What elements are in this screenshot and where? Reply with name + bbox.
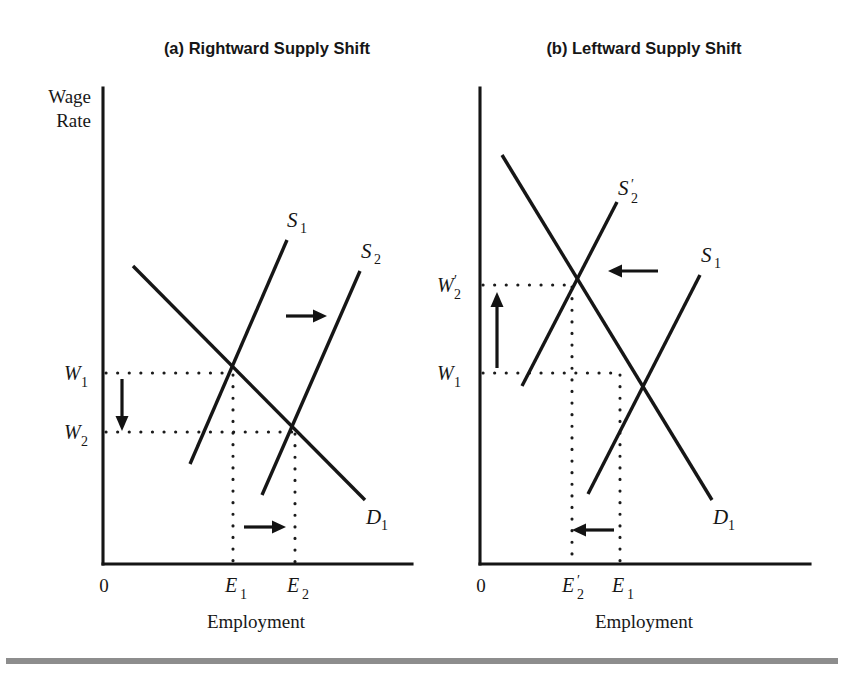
panel-b-supply-1-label-sub: 1: [714, 256, 721, 271]
panel-a-tick-e1: E 1: [224, 574, 247, 602]
panel-b-tick-e1-sub: 1: [627, 587, 634, 602]
panel-b-tick-e2-prime-prime: ′: [577, 573, 580, 588]
panel-a-wage-fall-arrow: [116, 379, 129, 431]
panel-a-employment-rise-arrow: [244, 521, 286, 534]
panel-b-tick-w2-prime: W ′ 2: [437, 273, 461, 302]
panel-b-supply-curve-2-prime: [522, 202, 617, 386]
panel-b-tick-e1-text: E: [611, 574, 624, 596]
panel-b-tick-w2-prime-prime: ′: [454, 273, 457, 288]
panel-a-supply-2-label-sub: 2: [374, 252, 381, 267]
panel-b-tick-e2-prime: E ′ 2: [561, 573, 584, 602]
panel-a-demand-1-label: D 1: [365, 505, 388, 533]
panel-a-supply-1-label-sub: 1: [300, 221, 307, 236]
panel-b-x-axis-label: Employment: [595, 611, 694, 632]
panel-b-employment-fall-arrow: [572, 524, 614, 537]
panel-a-tick-e1-text: E: [224, 574, 237, 596]
panel-b-supply-curve-1: [588, 275, 700, 494]
panel-b-tick-e2-prime-text: E: [561, 574, 574, 596]
panel-b-wage-rise-arrow: [491, 292, 504, 368]
panel-a-supply-curve-2: [262, 271, 360, 495]
panel-b-title: (b) Leftward Supply Shift: [546, 39, 742, 57]
panel-b-supply-2-prime-label-text: S: [618, 176, 629, 200]
panel-a-demand-curve-1: [133, 266, 365, 500]
panel-b-tick-w1-sub: 1: [454, 375, 461, 390]
panel-b-tick-e2-prime-sub: 2: [577, 587, 584, 602]
panel-b-origin-label: 0: [476, 575, 486, 596]
panel-b-tick-e1: E 1: [611, 574, 634, 602]
panel-b-supply-1-label-text: S: [701, 243, 712, 267]
panel-b-demand-1-label: D 1: [712, 505, 735, 533]
panel-a-tick-e2-text: E: [286, 574, 299, 596]
panel-a-supply-shift-arrow: [286, 310, 327, 323]
panel-a-supply-2-label-text: S: [361, 239, 372, 263]
panel-b-supply-shift-arrow: [608, 265, 658, 278]
panel-a-tick-e1-sub: 1: [240, 587, 247, 602]
panel-a-tick-w1-sub: 1: [81, 375, 88, 390]
panel-a-tick-w2: W 2: [64, 421, 88, 449]
panel-a: (a) Rightward Supply Shift Wage Rate Emp…: [48, 39, 412, 632]
panel-a-tick-e2: E 2: [286, 574, 309, 602]
panel-a-tick-w2-sub: 2: [81, 434, 88, 449]
panel-b-tick-w2-prime-sub: 2: [454, 287, 461, 302]
panel-a-origin-label: 0: [99, 575, 109, 596]
panel-a-supply-2-label: S 2: [361, 239, 381, 267]
panel-a-title: (a) Rightward Supply Shift: [164, 39, 371, 57]
supply-shift-figure: (a) Rightward Supply Shift Wage Rate Emp…: [0, 0, 844, 676]
panel-a-y-axis-label-line1: Wage: [48, 86, 91, 107]
panel-b-tick-w1: W 1: [437, 362, 461, 390]
panel-a-tick-e2-sub: 2: [302, 587, 309, 602]
figure-root: (a) Rightward Supply Shift Wage Rate Emp…: [0, 0, 844, 676]
panel-b-demand-1-label-text: D: [712, 505, 728, 529]
panel-b-demand-curve-1: [502, 155, 712, 500]
panel-a-supply-1-label: S 1: [287, 208, 307, 236]
panel-b-supply-2-prime-label-prime: ′: [631, 177, 634, 192]
panel-b-supply-2-prime-label: S ′ 2: [618, 176, 638, 206]
panel-b-supply-1-label: S 1: [701, 243, 721, 271]
footer-divider: [6, 658, 838, 664]
panel-a-y-axis-label-line2: Rate: [56, 110, 91, 131]
panel-b-supply-2-prime-label-sub: 2: [631, 191, 638, 206]
panel-a-demand-1-label-sub: 1: [381, 518, 388, 533]
panel-b: (b) Leftward Supply Shift Employment 0 S: [437, 39, 810, 632]
panel-a-demand-1-label-text: D: [365, 505, 381, 529]
panel-a-supply-curve-1: [190, 240, 287, 464]
panel-a-tick-w1: W 1: [64, 362, 88, 390]
panel-a-x-axis-label: Employment: [207, 611, 306, 632]
panel-a-supply-1-label-text: S: [287, 208, 298, 232]
panel-b-demand-1-label-sub: 1: [728, 518, 735, 533]
